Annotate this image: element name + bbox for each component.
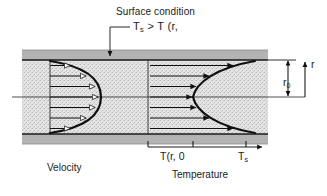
- pipe-wall-upper: [22, 50, 268, 60]
- equation-remainder: T (r,: [157, 20, 178, 32]
- surface-condition-title: Surface condition: [116, 7, 195, 17]
- radius-dimension: [268, 60, 296, 96]
- r0-subscript: 0: [287, 82, 291, 90]
- r0-symbol: r: [283, 76, 287, 88]
- temperature-axis-left-label: T(r, 0: [160, 151, 185, 162]
- ts-axis-subscript: s: [244, 156, 248, 164]
- velocity-section-caption: Velocity: [47, 163, 81, 173]
- temperature-axis-right-label: Ts: [238, 151, 248, 162]
- ts-subscript: s: [140, 25, 144, 34]
- pipe-wall-lower: [22, 134, 268, 144]
- pipe-radius-label: r0: [283, 77, 290, 88]
- radial-coordinate-label: r: [311, 59, 315, 70]
- surface-condition-equation: Ts > T (r,: [133, 21, 178, 32]
- temperature-section-caption: Temperature: [172, 170, 228, 180]
- ts-symbol: T: [133, 20, 140, 32]
- relation-symbol: >: [147, 20, 154, 32]
